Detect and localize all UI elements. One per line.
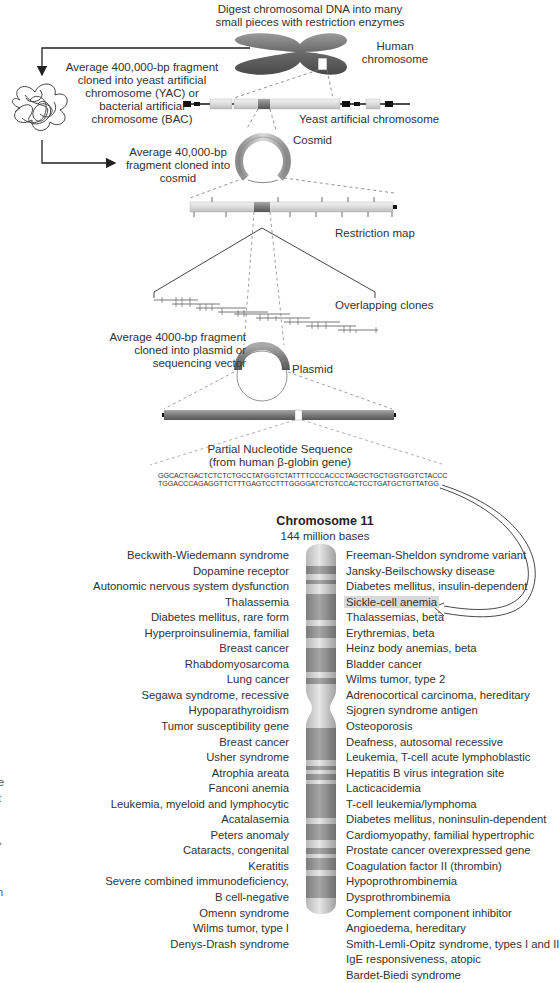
label-line: chromosome (YAC) or	[62, 87, 222, 100]
cosmid-ring-icon	[239, 137, 287, 183]
locus-item: Breast cancer	[29, 641, 289, 657]
label-line: cosmid	[118, 172, 238, 185]
chromosome-11-icon	[306, 544, 336, 915]
locus-item: Severe combined immunodeficiency,	[29, 874, 289, 890]
locus-item: Diabetes mellitus, insulin-dependent	[346, 579, 556, 595]
overlapping-clones-label: Overlapping clones	[335, 299, 433, 312]
zoom-lines-2	[246, 109, 276, 130]
locus-item: Sjogren syndrome antigen	[346, 703, 556, 719]
locus-item: Denys-Drash syndrome	[29, 937, 289, 953]
locus-item: Smith-Lemli-Opitz syndrome, types I and …	[346, 937, 556, 953]
locus-item: Osteoporosis	[346, 719, 556, 735]
locus-item: Bladder cancer	[346, 657, 556, 673]
locus-item: Segawa syndrome, recessive	[29, 688, 289, 704]
title-line: Partial Nucleotide Sequence	[180, 443, 380, 456]
yac-step-label: Average 400,000-bp fragment cloned into …	[62, 61, 222, 126]
zoom-lines-5	[164, 372, 392, 409]
restriction-map-label: Restriction map	[335, 227, 415, 240]
chromosome-subtitle: 144 million bases	[255, 530, 395, 542]
label-line: sequencing vector	[86, 357, 246, 370]
label-line: cloned into yeast artificial	[62, 74, 222, 87]
locus-item: Thalassemias, beta	[346, 610, 556, 626]
top-caption: Digest chromosomal DNA into many small p…	[180, 3, 440, 29]
locus-item: Thalassemia	[29, 595, 289, 611]
locus-item: Cardiomyopathy, familial hypertrophic	[346, 828, 556, 844]
plasmid-insert-bar	[162, 410, 396, 420]
locus-item: Lacticacidemia	[346, 781, 556, 797]
edge-fragment: n	[0, 886, 3, 898]
locus-item: Keratitis	[29, 859, 289, 875]
locus-item: Hypoprothrombinemia	[346, 874, 556, 890]
locus-item: Acatalasemia	[29, 812, 289, 828]
locus-item: T-cell leukemia/lymphoma	[346, 797, 556, 813]
locus-item: Adrenocortical carcinoma, hereditary	[346, 688, 556, 704]
locus-item: Deafness, autosomal recessive	[346, 735, 556, 751]
locus-item: Coagulation factor II (thrombin)	[346, 859, 556, 875]
locus-item: Freeman-Sheldon syndrome variant	[346, 548, 556, 564]
zoom-lines-4	[244, 212, 284, 345]
locus-item: IgE responsiveness, atopic	[346, 952, 556, 968]
label-line: chromosome	[350, 53, 440, 66]
locus-item: Prostate cancer overexpressed gene	[346, 843, 556, 859]
locus-item: Cataracts, congenital	[29, 843, 289, 859]
left-loci-list: Beckwith-Wiedemann syndrome Dopamine rec…	[29, 548, 289, 952]
caption-line: Digest chromosomal DNA into many	[180, 3, 440, 16]
locus-item: Dysprothrombinemia	[346, 890, 556, 906]
locus-item: B cell-negative	[29, 890, 289, 906]
locus-item: Fanconi anemia	[29, 781, 289, 797]
locus-item: Breast cancer	[29, 735, 289, 751]
locus-item: Atrophia areata	[29, 766, 289, 782]
locus-item: Jansky-Beilschowsky disease	[346, 564, 556, 580]
label-line: Average 40,000-bp	[118, 146, 238, 159]
plasmid-step-label: Average 4000-bp fragment cloned into pla…	[86, 331, 246, 370]
title-line: (from human β-globin gene)	[180, 456, 380, 469]
locus-item: Hepatitis B virus integration site	[346, 766, 556, 782]
locus-item: Wilms tumor, type 2	[346, 672, 556, 688]
zoom-lines-1	[234, 70, 333, 98]
locus-item: Omenn syndrome	[29, 906, 289, 922]
locus-item: Autonomic nervous system dysfunction	[29, 579, 289, 595]
locus-item: Diabetes mellitus, rare form	[29, 610, 289, 626]
locus-item: Bardet-Biedi syndrome	[346, 968, 556, 983]
label-line: Average 400,000-bp fragment	[62, 61, 222, 74]
locus-item-highlighted: Sickle-cell anemia	[346, 595, 556, 611]
cosmid-arrow	[42, 140, 115, 163]
edge-fragment: ,	[0, 834, 2, 846]
caption-line: small pieces with restriction enzymes	[180, 16, 440, 29]
restriction-map-bar	[190, 197, 397, 217]
cosmid-label: Cosmid	[293, 134, 332, 147]
locus-item: Peters anomaly	[29, 828, 289, 844]
yac-label: Yeast artificial chromosome	[299, 113, 499, 126]
sequence-title: Partial Nucleotide Sequence (from human …	[180, 443, 380, 469]
edge-fragment: e	[0, 776, 4, 788]
label-line: chromosome (BAC)	[62, 113, 222, 126]
edge-fragment: t	[0, 792, 1, 804]
locus-item: Dopamine receptor	[29, 564, 289, 580]
nucleotide-sequence: GGCACTGACTCTCTCTGCCTATGGTCTATTTTCCCACCCT…	[158, 472, 447, 488]
plasmid-label: Plasmid	[292, 363, 333, 376]
cosmid-step-label: Average 40,000-bp fragment cloned into c…	[118, 146, 238, 185]
locus-item: Wilms tumor, type I	[29, 921, 289, 937]
locus-item: Diabetes mellitus, noninsulin-dependent	[346, 812, 556, 828]
locus-item: Beckwith-Wiedemann syndrome	[29, 548, 289, 564]
locus-item: Erythremias, beta	[346, 626, 556, 642]
label-line: Average 4000-bp fragment	[86, 331, 246, 344]
label-line: fragment cloned into	[118, 159, 238, 172]
locus-item: Hyperproinsulinemia, familial	[29, 626, 289, 642]
locus-item: Usher syndrome	[29, 750, 289, 766]
locus-item: Complement component inhibitor	[346, 906, 556, 922]
sickle-cell-highlight: Sickle-cell anemia	[344, 596, 439, 608]
label-line: Human	[350, 40, 440, 53]
locus-item: Lung cancer	[29, 672, 289, 688]
locus-item: Hypoparathyroidism	[29, 703, 289, 719]
locus-item: Heinz body anemias, beta	[346, 641, 556, 657]
label-line: bacterial artificial	[62, 100, 222, 113]
human-chromosome-icon	[235, 33, 347, 74]
locus-item: Angioedema, hereditary	[346, 921, 556, 937]
chromosome-title: Chromosome 11	[255, 514, 395, 528]
locus-item: Tumor susceptibility gene	[29, 719, 289, 735]
label-line: cloned into plasmid or	[86, 344, 246, 357]
right-loci-list: Freeman-Sheldon syndrome variant Jansky-…	[346, 548, 556, 983]
human-chromosome-label: Human chromosome	[350, 40, 440, 66]
locus-item: Leukemia, myeloid and lymphocytic	[29, 797, 289, 813]
